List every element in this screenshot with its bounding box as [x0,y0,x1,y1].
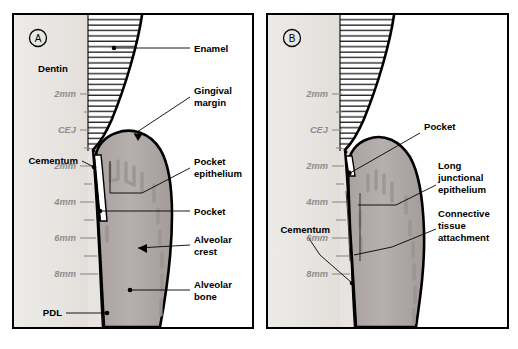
label-alveolar-bone-line1: Alveolar [194,279,232,290]
label-pocket: Pocket [194,206,226,217]
label-alveolar-bone-line2: bone [194,291,217,302]
figure-caption [12,330,506,347]
panel-a-illustration: A 2mm CEJ 2mm 4mm 6mm 8mm Dentin Enamel … [14,15,252,327]
label-pdl: PDL [43,307,62,318]
panel-b-illustration: B 2mm CEJ 2mm 4mm 6mm 8mm Pocket Long ju… [268,15,507,327]
label-b-pocket: Pocket [424,121,456,132]
panel-b-scale-cej: CEJ [310,125,329,135]
panel-a-scale-6mm: 6mm [54,233,76,243]
label-alveolar-crest-line1: Alveolar [194,234,232,245]
label-cementum: Cementum [28,155,78,166]
label-long-junctional-epithelium-line1: Long [438,160,462,171]
label-connective-tissue-attachment-line2: tissue [438,220,466,231]
panel-a-id: A [35,33,42,44]
label-enamel: Enamel [194,43,228,54]
label-gingival-margin-line2: margin [194,97,226,108]
label-pocket-epithelium-line1: Pocket [194,156,226,167]
label-b-cementum: Cementum [280,224,330,235]
panel-b-id: B [289,33,296,44]
panel-a-scale-4mm: 4mm [53,197,76,207]
panel-a: A 2mm CEJ 2mm 4mm 6mm 8mm Dentin Enamel … [12,13,254,329]
panel-b-scale-2mm-upper: 2mm [305,89,328,99]
panel-a-scale-2mm-upper: 2mm [53,89,76,99]
label-long-junctional-epithelium-line3: epithelium [438,184,486,195]
label-alveolar-crest-line2: crest [194,246,218,257]
panel-b-scale-2mm: 2mm [305,161,328,171]
label-long-junctional-epithelium-line2: junctional [437,172,483,183]
label-pocket-epithelium-line2: epithelium [194,168,242,179]
panel-b-scale-8mm: 8mm [306,269,328,279]
label-connective-tissue-attachment-line3: attachment [438,232,490,243]
panel-b: B 2mm CEJ 2mm 4mm 6mm 8mm Pocket Long ju… [266,13,509,329]
panel-a-scale-8mm: 8mm [54,269,76,279]
panel-b-scale-4mm: 4mm [305,197,328,207]
label-dentin: Dentin [38,63,68,74]
label-gingival-margin-line1: Gingival [194,85,232,96]
figure-canvas: A 2mm CEJ 2mm 4mm 6mm 8mm Dentin Enamel … [0,0,518,349]
label-connective-tissue-attachment-line1: Connective [438,208,490,219]
panel-a-scale-cej: CEJ [58,125,77,135]
